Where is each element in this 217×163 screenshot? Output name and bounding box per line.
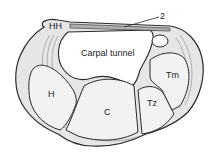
- label-ligament-2: 2: [160, 12, 165, 21]
- ulnar-canal: [152, 35, 168, 47]
- label-trapezium: Tm: [166, 71, 179, 80]
- label-hamate-hook: HH: [49, 22, 62, 31]
- label-hamate: H: [48, 90, 55, 99]
- carpal-tunnel-diagram: [0, 0, 217, 163]
- label-capitate: C: [104, 108, 111, 117]
- label-trapezoid: Tz: [147, 99, 157, 108]
- label-carpal-tunnel: Carpal tunnel: [81, 49, 135, 58]
